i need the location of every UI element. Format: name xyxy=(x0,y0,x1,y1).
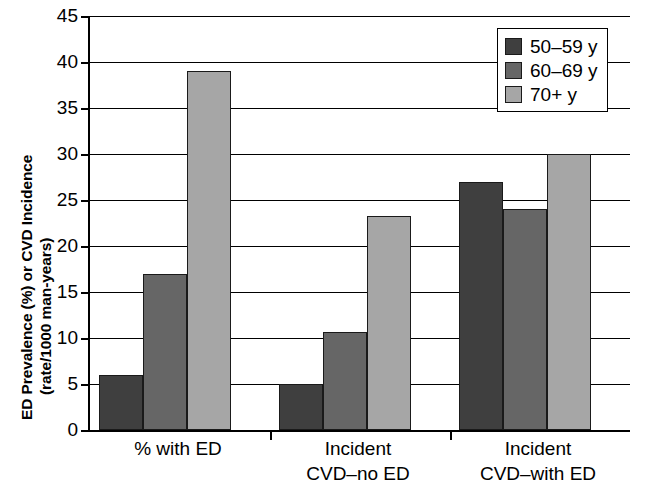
legend-item: 70+ y xyxy=(505,82,598,106)
x-axis-category-label-line: % with ED xyxy=(88,436,268,461)
legend: 50–59 y60–69 y70+ y xyxy=(497,28,608,112)
legend-swatch-icon xyxy=(505,86,522,103)
bar xyxy=(143,274,187,430)
legend-item-label: 60–69 y xyxy=(530,61,598,80)
y-axis-tick-mark xyxy=(81,200,88,202)
x-axis-category-label-line: CVD–with ED xyxy=(448,461,628,486)
y-axis-tick-label: 30 xyxy=(57,143,78,165)
bar xyxy=(459,182,503,430)
y-axis-tick-mark xyxy=(81,246,88,248)
legend-swatch-icon xyxy=(505,62,522,79)
x-axis-category-label: IncidentCVD–no ED xyxy=(268,436,448,486)
bar xyxy=(367,216,411,430)
y-axis-tick-mark xyxy=(81,384,88,386)
y-axis-tick-label: 45 xyxy=(57,5,78,27)
y-axis-tick-label: 10 xyxy=(57,327,78,349)
legend-swatch-icon xyxy=(505,38,522,55)
gridline xyxy=(90,16,630,17)
x-axis-category-labels: % with EDIncidentCVD–no EDIncidentCVD–wi… xyxy=(88,436,628,489)
bar-chart-figure: ED Prevalence (%) or CVD Incidence (rate… xyxy=(0,0,652,489)
legend-item-label: 50–59 y xyxy=(530,37,598,56)
x-axis-category-label: IncidentCVD–with ED xyxy=(448,436,628,486)
x-axis-category-label-line: CVD–no ED xyxy=(268,461,448,486)
y-axis-tick-label: 25 xyxy=(57,189,78,211)
x-axis-category-label-line: Incident xyxy=(448,436,628,461)
y-axis-tick-label: 15 xyxy=(57,281,78,303)
legend-item: 50–59 y xyxy=(505,34,598,58)
y-axis-tick-mark xyxy=(81,338,88,340)
y-axis-tick-label: 35 xyxy=(57,97,78,119)
y-axis-tick-label: 5 xyxy=(67,373,78,395)
legend-item-label: 70+ y xyxy=(530,85,577,104)
bar xyxy=(187,71,231,430)
y-axis-title-line-2: (rate/1000 man-years) xyxy=(37,238,55,395)
legend-item: 60–69 y xyxy=(505,58,598,82)
x-axis-category-label-line: Incident xyxy=(268,436,448,461)
y-axis-tick-label: 0 xyxy=(67,419,78,441)
bar xyxy=(323,332,367,430)
y-axis-tick-mark xyxy=(81,62,88,64)
y-axis-title: ED Prevalence (%) or CVD Incidence (rate… xyxy=(0,0,50,435)
y-axis-tick-label: 40 xyxy=(57,51,78,73)
x-axis-category-label: % with ED xyxy=(88,436,268,461)
bar xyxy=(99,375,143,430)
y-axis-tick-label: 20 xyxy=(57,235,78,257)
bar xyxy=(279,384,323,430)
y-axis-tick-mark xyxy=(81,16,88,18)
y-axis-title-line-1: ED Prevalence (%) or CVD Incidence xyxy=(18,155,36,420)
y-axis-tick-mark xyxy=(81,108,88,110)
bar xyxy=(547,154,591,430)
y-axis-tick-mark xyxy=(81,292,88,294)
bar xyxy=(503,209,547,430)
y-axis-tick-mark xyxy=(81,430,88,432)
y-axis-tick-mark xyxy=(81,154,88,156)
